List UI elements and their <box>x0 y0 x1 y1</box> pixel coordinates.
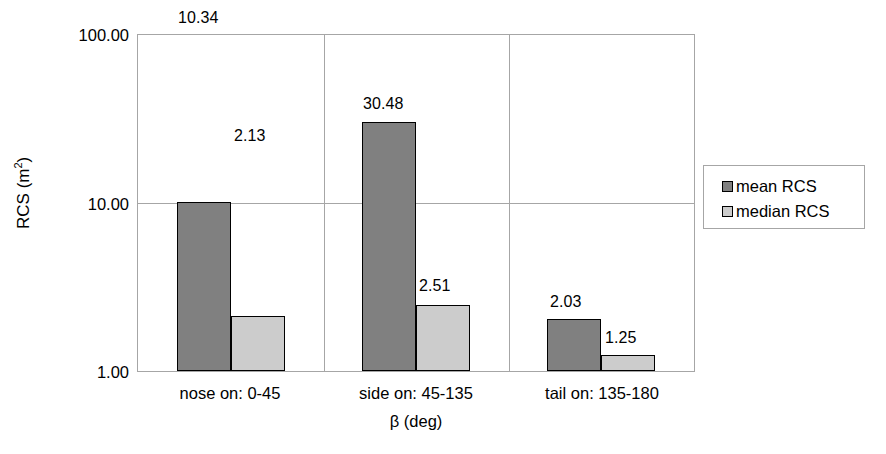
y-tick-100: 100.00 <box>49 26 129 45</box>
y-axis-title: RCS (m2) <box>12 123 34 263</box>
bar-label-median-nose-on: 2.13 <box>234 127 266 145</box>
legend-label-mean-rcs: mean RCS <box>736 177 817 196</box>
legend-item-median-rcs[interactable]: median RCS <box>722 200 864 223</box>
legend-swatch-mean-rcs <box>722 181 733 192</box>
legend-label-median-rcs: median RCS <box>736 202 830 221</box>
x-tick-nose-on: nose on: 0-45 <box>137 384 323 403</box>
y-axis-title-close: ) <box>14 157 33 163</box>
x-tick-tail-on: tail on: 135-180 <box>509 384 695 403</box>
chart-screenshot: 100.00 10.00 1.00 RCS (m2) 10.34 2.13 30… <box>0 0 886 454</box>
bar-label-mean-nose-on: 10.34 <box>178 9 219 27</box>
category-separator-2 <box>509 35 510 371</box>
bar-mean-nose-on[interactable] <box>177 202 231 372</box>
bar-mean-tail-on[interactable] <box>547 319 601 371</box>
plot-area: 10.34 2.13 30.48 2.51 2.03 1.25 <box>137 34 695 372</box>
bar-label-mean-tail-on: 2.03 <box>550 293 582 311</box>
y-axis-title-text: RCS (m <box>14 169 33 229</box>
bar-label-median-tail-on: 1.25 <box>605 329 637 347</box>
bar-label-median-side-on: 2.51 <box>419 277 451 295</box>
y-tick-1: 1.00 <box>49 363 129 382</box>
y-tick-10: 10.00 <box>49 195 129 214</box>
x-axis-title: β (deg) <box>137 412 695 431</box>
legend-item-mean-rcs[interactable]: mean RCS <box>722 175 864 198</box>
y-axis-ticks: 100.00 10.00 1.00 <box>47 0 129 454</box>
bar-label-mean-side-on: 30.48 <box>363 95 404 113</box>
bar-mean-side-on[interactable] <box>362 122 416 371</box>
bar-median-nose-on[interactable] <box>231 316 285 371</box>
y-axis-title-exponent: 2 <box>12 162 24 168</box>
category-separator-1 <box>324 35 325 371</box>
bar-median-tail-on[interactable] <box>601 355 655 371</box>
bar-median-side-on[interactable] <box>416 305 470 372</box>
chart-legend: mean RCS median RCS <box>703 165 865 229</box>
x-tick-side-on: side on: 45-135 <box>323 384 509 403</box>
legend-swatch-median-rcs <box>722 206 733 217</box>
